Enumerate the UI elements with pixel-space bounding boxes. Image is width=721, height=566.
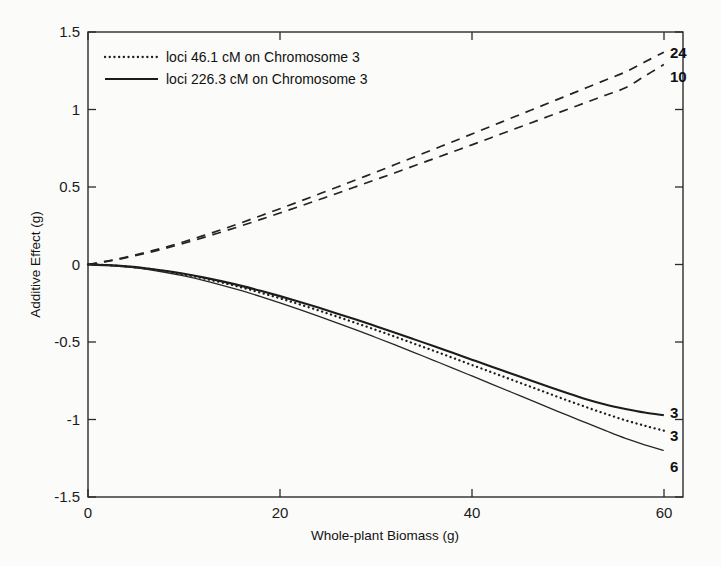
series-end-label-3-solid: 3 — [670, 404, 678, 421]
legend-label-loci-226-3: loci 226.3 cM on Chromosome 3 — [166, 71, 368, 87]
y-tick-label-1: 1 — [72, 101, 80, 118]
legend-label-loci-46-1: loci 46.1 cM on Chromosome 3 — [166, 49, 360, 65]
series-line-10 — [88, 65, 664, 265]
series-end-label-6-solid: 6 — [670, 458, 678, 475]
y-axis-title: Additive Effect (g) — [28, 211, 43, 317]
plot-frame — [88, 32, 683, 497]
series-line-3-solid — [88, 265, 664, 416]
chart-figure: 1.5 1 0.5 0 -0.5 -1 -1.5 0 20 40 60 Whol… — [0, 0, 721, 566]
series-end-label-3-dotted: 3 — [670, 427, 678, 444]
series-paths — [88, 52, 664, 450]
y-tick-label-1.5: 1.5 — [59, 23, 80, 40]
series-line-6-solid — [88, 265, 664, 451]
x-axis-tickmarks — [88, 32, 664, 497]
x-tick-label-60: 60 — [656, 504, 673, 521]
y-axis-tickmarks — [88, 32, 683, 497]
additive-effect-line-chart: 1.5 1 0.5 0 -0.5 -1 -1.5 0 20 40 60 Whol… — [0, 0, 721, 566]
y-tick-label-0: 0 — [72, 256, 80, 273]
series-end-label-24: 24 — [670, 44, 687, 61]
y-tick-label-neg1: -1 — [67, 411, 80, 428]
y-tick-label-0.5: 0.5 — [59, 178, 80, 195]
x-tick-label-0: 0 — [84, 504, 92, 521]
y-tick-label-neg0.5: -0.5 — [54, 333, 80, 350]
x-tick-label-20: 20 — [272, 504, 289, 521]
chart-legend: loci 46.1 cM on Chromosome 3 loci 226.3 … — [105, 49, 368, 87]
x-tick-label-40: 40 — [464, 504, 481, 521]
series-end-label-10: 10 — [670, 68, 687, 85]
y-tick-label-neg1.5: -1.5 — [54, 488, 80, 505]
x-axis-title: Whole-plant Biomass (g) — [311, 528, 459, 543]
series-line-3-dotted — [88, 265, 664, 431]
